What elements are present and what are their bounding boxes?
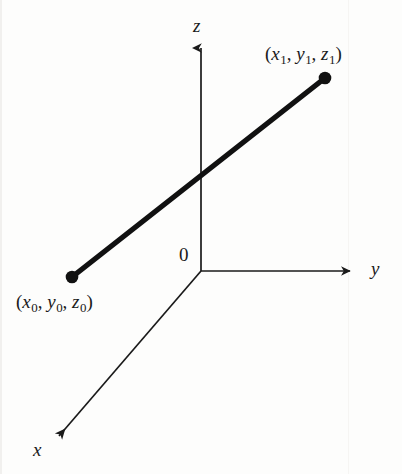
p0-close-paren: ): [86, 291, 92, 312]
p1-close-paren: ): [335, 43, 341, 64]
z-axis-label: z: [193, 16, 200, 35]
p1-x-subscript: 1: [280, 52, 287, 67]
p0-y-subscript: 0: [56, 300, 63, 315]
p0-separator-2: ,: [63, 291, 73, 312]
p0-separator-1: ,: [38, 291, 48, 312]
p1-separator-2: ,: [312, 43, 322, 64]
figure-3d-line-segment: z y x 0 (x1, y1, z1) (x0, y0, z0): [0, 0, 402, 474]
p1-y-var: y: [296, 43, 304, 64]
p1-x-var: x: [271, 43, 279, 64]
point-label-p0: (x0, y0, z0): [16, 292, 93, 311]
y-axis-label: y: [371, 259, 379, 278]
p1-separator-1: ,: [287, 43, 297, 64]
point-marker-p1: [319, 72, 332, 85]
p1-z-subscript: 1: [329, 52, 336, 67]
x-axis-label: x: [33, 440, 41, 459]
origin-label: 0: [179, 245, 189, 264]
p0-z-subscript: 0: [80, 300, 87, 315]
point-label-p1: (x1, y1, z1): [265, 44, 342, 63]
point-marker-p0: [66, 271, 79, 284]
p0-z-var: z: [72, 291, 79, 312]
p1-z-var: z: [321, 43, 328, 64]
p0-x-subscript: 0: [31, 300, 38, 315]
p0-y-var: y: [47, 291, 55, 312]
figure-vector-canvas: [0, 0, 402, 474]
p1-y-subscript: 1: [305, 52, 312, 67]
p0-x-var: x: [22, 291, 30, 312]
line-segment: [72, 78, 325, 277]
